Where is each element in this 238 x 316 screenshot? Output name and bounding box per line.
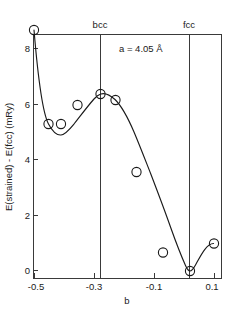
y-ticks (34, 49, 38, 271)
y-tick-label-8: 8 (25, 43, 30, 54)
fcc-label: fcc (183, 19, 195, 30)
x-axis-title: b (124, 295, 129, 306)
axes-frame (34, 35, 222, 279)
x-tick-labels: -0.5 -0.3 -0.1 0.1 (28, 281, 219, 292)
lattice-constant-annotation: a = 4.05 Å (119, 43, 163, 54)
x-tick-label-0.1: 0.1 (205, 281, 218, 292)
y-axis-title: E(strained) - E(fcc) (mRy) (3, 103, 14, 211)
energy-vs-strain-plot: 0 2 4 6 8 -0.5 -0.3 -0.1 0.1 b E(straine… (0, 0, 238, 316)
y-tick-label-6: 6 (25, 99, 30, 110)
y-tick-label-2: 2 (25, 210, 30, 221)
y-tick-labels: 0 2 4 6 8 (25, 43, 30, 276)
x-tick-label-neg0.5: -0.5 (28, 281, 44, 292)
bcc-label: bcc (93, 19, 108, 30)
data-point (56, 119, 65, 128)
data-markers (29, 25, 218, 275)
data-curve-group (34, 30, 214, 271)
y-tick-label-0: 0 (25, 265, 30, 276)
energy-curve (34, 30, 214, 271)
x-tick-label-neg0.3: -0.3 (86, 281, 102, 292)
x-tick-label-neg0.1: -0.1 (146, 281, 162, 292)
x-ticks (34, 273, 214, 279)
y-tick-label-4: 4 (25, 154, 30, 165)
data-point (73, 100, 82, 109)
data-point (158, 248, 167, 257)
data-point (132, 167, 141, 176)
figure-container: 0 2 4 6 8 -0.5 -0.3 -0.1 0.1 b E(straine… (0, 0, 238, 316)
